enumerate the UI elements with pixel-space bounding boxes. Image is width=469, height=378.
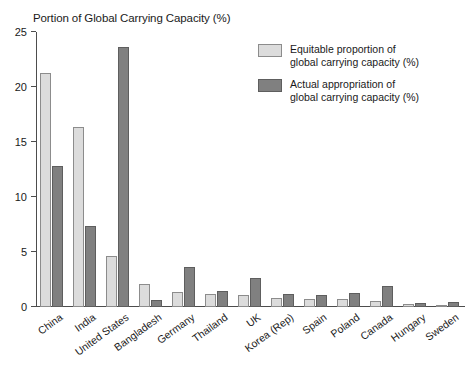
bar [337,299,349,307]
y-tick-label: 25 [15,26,27,38]
bar [118,47,130,307]
x-axis-label: Poland [328,309,364,340]
legend-item: Actual appropriation ofglobal carrying c… [258,78,463,104]
y-tick-label: 0 [21,301,27,313]
bar [238,295,250,307]
bar-group [201,32,234,307]
bar-group [102,32,135,307]
y-tick-label: 10 [15,191,27,203]
bar [283,294,295,307]
bar [370,301,382,307]
y-tick-label: 15 [15,136,27,148]
bar [52,166,64,307]
bar [217,291,229,308]
x-axis-labels: ChinaIndiaUnited StatesBangladeshGermany… [36,309,465,378]
bar [403,304,415,307]
bar [40,73,52,307]
x-axis-label: Sweden [422,309,462,343]
bar [85,226,97,307]
bar [250,278,262,307]
bar [415,303,427,307]
bar-group [69,32,102,307]
bar-group [168,32,201,307]
bar-group [135,32,168,307]
bar-group [36,32,69,307]
y-tick-label: 5 [21,246,27,258]
bar [382,286,394,307]
bar [106,256,118,307]
bar [151,300,163,307]
bar [172,292,184,307]
legend-item: Equitable proportion ofglobal carrying c… [258,43,463,69]
x-axis-label: UK [243,309,264,329]
legend-swatch [258,79,282,92]
bar-chart: Portion of Global Carrying Capacity (%) … [0,0,469,378]
bar [349,293,361,307]
legend-label: Equitable proportion ofglobal carrying c… [290,43,419,69]
chart-legend: Equitable proportion ofglobal carrying c… [258,43,463,113]
bar [448,302,460,307]
bar [73,127,85,307]
bar [436,305,448,307]
bar [271,298,283,307]
x-axis-label: Spain [299,309,330,336]
bar [304,299,316,307]
legend-label: Actual appropriation ofglobal carrying c… [290,78,419,104]
bar [316,295,328,307]
y-tick-label: 20 [15,81,27,93]
bar [205,294,217,307]
bar [184,267,196,307]
bar [139,284,151,307]
legend-swatch [258,44,282,57]
x-axis-label: China [35,309,67,337]
chart-title: Portion of Global Carrying Capacity (%) [33,12,230,24]
